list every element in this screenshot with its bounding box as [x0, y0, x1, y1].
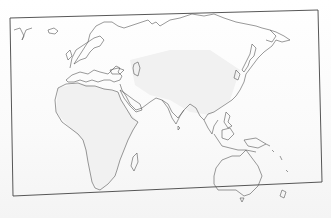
madagascar-outline [131, 153, 138, 171]
borneo-outline [222, 128, 234, 140]
australia-outline [214, 150, 262, 196]
tasmania-outline [240, 198, 244, 202]
new-zealand-outline [280, 190, 286, 198]
philippines-outline [224, 112, 232, 128]
new-guinea-outline [244, 138, 266, 148]
black-sea-outline [110, 68, 124, 74]
japan-outline [242, 44, 256, 72]
greenland-edge-outline [14, 28, 32, 40]
sri-lanka-outline [178, 126, 180, 130]
iceland-outline [48, 28, 58, 34]
pacific-islands-outline [266, 144, 288, 172]
africa-shade [56, 83, 138, 190]
outline-map [0, 0, 331, 218]
asia-shade [130, 50, 240, 115]
southeast-asia-outline [204, 120, 256, 152]
